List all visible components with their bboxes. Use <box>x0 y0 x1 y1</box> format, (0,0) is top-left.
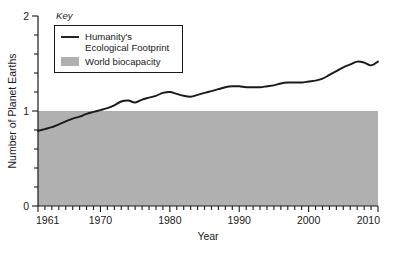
y-tick-label: 2 <box>23 10 29 22</box>
legend-item-1-label-line1: World biocapacity <box>85 56 161 67</box>
y-axis-title: Number of Planet Earths <box>6 54 18 169</box>
ecological-footprint-chart: 012196119701980199020002010 Number of Pl… <box>0 0 403 253</box>
legend-heading: Key <box>56 10 74 21</box>
y-tick-label: 1 <box>23 105 29 117</box>
y-tick-label: 0 <box>23 200 29 212</box>
legend-box: Humanity's Ecological Footprint World bi… <box>55 26 183 73</box>
x-tick-label: 1970 <box>89 214 113 226</box>
x-tick-label: 2010 <box>357 214 381 226</box>
legend-item-0-label-line1: Humanity's <box>85 31 132 42</box>
chart-container: 012196119701980199020002010 Number of Pl… <box>0 0 403 253</box>
legend-item-0-label-line2: Ecological Footprint <box>85 42 170 53</box>
x-tick-label: 1990 <box>228 214 252 226</box>
x-axis-title: Year <box>197 230 219 242</box>
legend-area-swatch-icon <box>61 57 79 66</box>
x-tick-label: 1980 <box>158 214 182 226</box>
x-tick-label: 1961 <box>36 214 60 226</box>
biocapacity-band <box>38 111 378 206</box>
x-tick-label: 2000 <box>297 214 321 226</box>
world-biocapacity-area <box>38 111 378 206</box>
